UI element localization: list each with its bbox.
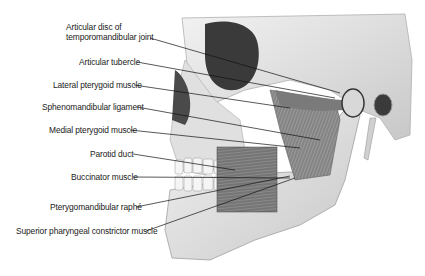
- styloid-process: [364, 118, 376, 160]
- label-lateral-pterygoid: Lateral pterygoid muscle: [53, 80, 142, 90]
- orbit-shape: [205, 22, 259, 91]
- label-superior-pharyngeal-constrictor: Superior pharyngeal constrictor muscle: [16, 226, 157, 236]
- label-medial-pterygoid: Medial pterygoid muscle: [49, 125, 137, 135]
- label-line-2: temporomandibular joint: [66, 32, 154, 42]
- label-line-1: Articular disc of: [66, 22, 154, 32]
- label-pterygomandibular-raphe: Pterygomandibular raphé: [50, 202, 142, 212]
- label-articular-disc: Articular disc of temporomandibular join…: [66, 22, 154, 42]
- label-sphenomandibular-ligament: Sphenomandibular ligament: [42, 102, 144, 112]
- anatomy-figure: Articular disc of temporomandibular join…: [0, 0, 425, 276]
- label-buccinator: Buccinator muscle: [71, 172, 138, 182]
- teeth: [175, 158, 224, 191]
- label-articular-tubercle: Articular tubercle: [79, 57, 140, 67]
- ear-canal: [374, 94, 392, 116]
- label-parotid-duct: Parotid duct: [90, 149, 134, 159]
- tmj-condyle: [342, 89, 364, 117]
